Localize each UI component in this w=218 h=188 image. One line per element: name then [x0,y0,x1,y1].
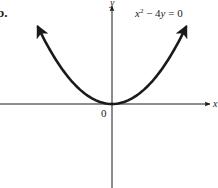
equation-minus-4: − 4 [143,7,160,19]
parabola-left-arm [38,27,112,104]
y-axis-label: y [110,0,114,8]
equation-equals-zero: = 0 [166,7,183,19]
x-axis-label: x [213,99,217,109]
equation-label: x2 − 4y = 0 [135,8,183,19]
parabola-right-arm [112,27,186,104]
figure-label: b. [0,6,7,19]
parabola-diagram [0,0,218,188]
origin-label: 0 [101,108,107,119]
